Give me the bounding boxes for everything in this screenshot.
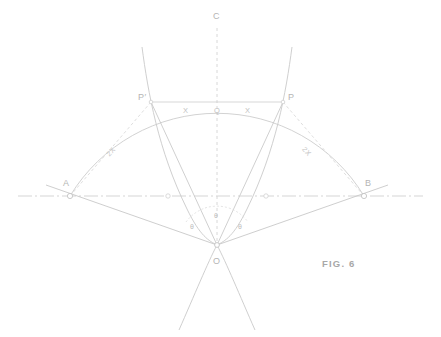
point-label-q: Q <box>214 106 220 115</box>
point-label-c: C <box>213 11 220 21</box>
dimension-label-x-right: X <box>245 106 250 115</box>
line-o-to-p <box>217 102 283 245</box>
dimension-label-x-left: X <box>183 106 188 115</box>
point-label-p: P <box>288 92 294 102</box>
right-curve-through-p <box>217 47 292 330</box>
angle-label-theta-left: θ <box>190 223 194 230</box>
point-marker-a <box>67 193 72 198</box>
angle-arc-center <box>205 206 229 208</box>
figure-6-diagram: C P′ P Q A B O X X 2X 2X θ θ θ FIG. 6 <box>0 0 441 337</box>
point-marker-b <box>361 193 366 198</box>
point-marker-left-crossing <box>166 194 170 198</box>
point-label-o: O <box>213 256 220 266</box>
figure-caption: FIG. 6 <box>322 258 356 269</box>
point-marker-o <box>215 243 220 248</box>
angle-label-theta-center: θ <box>214 212 218 219</box>
line-o-to-pprime <box>151 102 217 245</box>
angle-label-theta-right: θ <box>238 223 242 230</box>
point-marker-p <box>281 100 285 104</box>
dashed-chord-b-p <box>283 102 364 196</box>
angle-arc-right <box>229 208 248 222</box>
point-label-pprime: P′ <box>138 92 147 102</box>
geometry-vector-canvas <box>0 0 441 337</box>
angle-arc-left <box>186 208 205 222</box>
point-label-a: A <box>63 178 69 188</box>
point-marker-right-crossing <box>264 194 268 198</box>
left-curve-through-pprime <box>142 47 217 330</box>
point-marker-pprime <box>149 100 153 104</box>
point-label-b: B <box>365 178 371 188</box>
